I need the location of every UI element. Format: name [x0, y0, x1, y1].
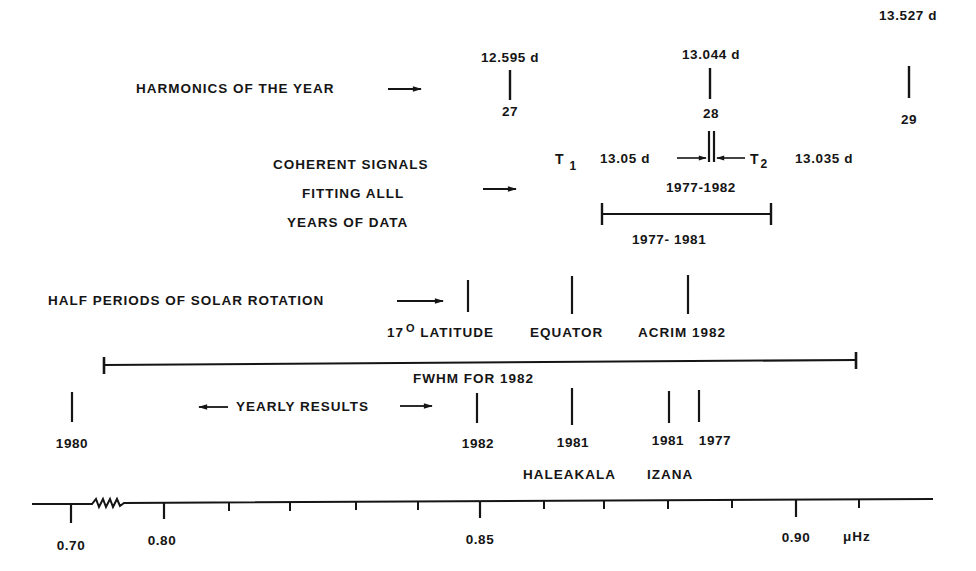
yearly-results-label: YEARLY RESULTS	[236, 400, 369, 414]
fwhm-label: FWHM FOR 1982	[413, 372, 534, 386]
t1-period: 13.05 d	[600, 152, 650, 166]
latitude-17-label: 17O LATITUDE	[387, 326, 494, 340]
axis-unit-label: μHz	[843, 530, 871, 544]
yearly-1981-izana-label: 1981	[652, 434, 684, 448]
frequency-axis	[32, 499, 933, 523]
coherent-label-line3: YEARS OF DATA	[287, 216, 408, 230]
acrim-1982-label: ACRIM 1982	[638, 326, 726, 340]
yearly-1977-izana-label: 1977	[699, 434, 731, 448]
range-1977-1981-bar	[602, 203, 771, 225]
yearly-1980-label: 1980	[56, 437, 88, 451]
axis-tick-label-0-70: 0.70	[57, 539, 86, 553]
t2-symbol: T2	[750, 152, 768, 166]
harmonic-27-number: 27	[502, 105, 518, 119]
t2-period: 13.035 d	[795, 152, 853, 166]
t1-symbol: T1	[555, 152, 577, 166]
yearly-1982-label: 1982	[462, 437, 494, 451]
harmonic-28-period: 13.044 d	[682, 48, 740, 62]
harmonic-28-number: 28	[703, 107, 719, 121]
harmonic-29-number: 29	[901, 113, 917, 127]
coherent-label-line1: COHERENT SIGNALS	[273, 158, 429, 172]
equator-label: EQUATOR	[530, 326, 603, 340]
yearly-1981-haleakala-label: 1981	[557, 436, 589, 450]
range-1977-1981-label: 1977- 1981	[632, 233, 706, 247]
range-1977-1982-label: 1977-1982	[666, 181, 736, 195]
axis-tick-label-0-85: 0.85	[466, 533, 495, 547]
harmonics-row-label: HARMONICS OF THE YEAR	[136, 82, 335, 96]
izana-label: IZANA	[647, 468, 693, 482]
half-periods-row-label: HALF PERIODS OF SOLAR ROTATION	[48, 294, 324, 308]
axis-tick-label-0-80: 0.80	[148, 534, 177, 548]
coherent-label-line2: FITTING ALLL	[302, 187, 404, 201]
haleakala-label: HALEAKALA	[523, 468, 616, 482]
harmonic-27-period: 12.595 d	[481, 51, 539, 65]
harmonic-29-period: 13.527 d	[879, 9, 937, 23]
axis-tick-label-0-90: 0.90	[782, 531, 811, 545]
